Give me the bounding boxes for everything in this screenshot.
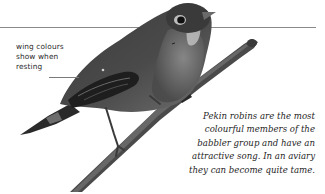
annotation-line: show when — [16, 52, 64, 62]
annotation-line: resting — [16, 62, 64, 72]
bird-eye — [177, 16, 185, 23]
caption-line: babbler group and have an — [135, 137, 315, 150]
caption-line: colourful members of the — [135, 123, 315, 136]
annotation-line: wing colours — [16, 42, 64, 52]
caption: Pekin robins are the most colourful memb… — [135, 110, 315, 177]
annotation-leader-line — [49, 77, 79, 78]
caption-line: they can become quite tame. — [135, 164, 315, 177]
caption-line: Pekin robins are the most — [135, 110, 315, 123]
bird-head — [166, 3, 210, 33]
legs — [106, 108, 124, 156]
book-page: wing colours show when resting Pekin rob… — [0, 0, 325, 194]
caption-line: attractive song. In an aviary — [135, 150, 315, 163]
wing-annotation-label: wing colours show when resting — [16, 42, 64, 72]
